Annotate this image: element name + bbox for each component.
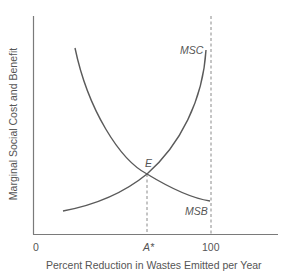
x-tick-origin: 0 bbox=[33, 242, 39, 253]
chart-canvas bbox=[0, 0, 295, 274]
x-axis-label: Percent Reduction in Wastes Emitted per … bbox=[46, 260, 262, 271]
msc-curve bbox=[63, 50, 206, 211]
y-axis-label: Marginal Social Cost and Benefit bbox=[7, 48, 19, 200]
msc-label: MSC bbox=[180, 45, 203, 56]
x-tick-astar: A* bbox=[143, 242, 154, 253]
x-tick-hundred: 100 bbox=[202, 242, 220, 253]
msb-label: MSB bbox=[185, 206, 208, 217]
equilibrium-label: E bbox=[145, 158, 152, 169]
